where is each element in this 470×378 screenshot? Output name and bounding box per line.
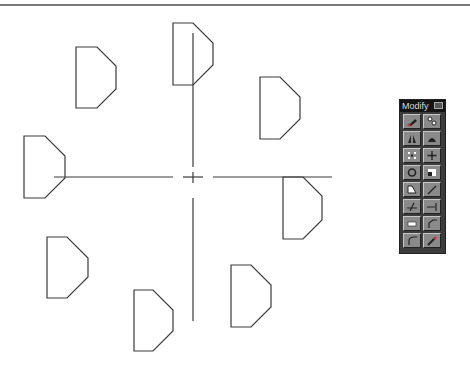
eraser-icon bbox=[406, 113, 418, 131]
block-shape[interactable] bbox=[231, 265, 271, 327]
offset-button[interactable] bbox=[423, 131, 441, 146]
move-icon bbox=[426, 147, 438, 165]
block-shape[interactable] bbox=[47, 237, 88, 298]
break-button[interactable] bbox=[403, 216, 421, 231]
modify-toolbar[interactable]: Modify bbox=[399, 99, 446, 254]
offset-icon bbox=[426, 130, 438, 148]
mirror-icon bbox=[406, 130, 418, 148]
erase-button[interactable] bbox=[403, 114, 421, 129]
scale-icon bbox=[426, 164, 438, 182]
stretch-icon bbox=[406, 181, 418, 199]
extend-button[interactable] bbox=[423, 199, 441, 214]
fillet-button[interactable] bbox=[403, 233, 421, 248]
extend-icon bbox=[426, 198, 438, 216]
block-shape[interactable] bbox=[76, 47, 116, 108]
fillet-icon bbox=[406, 232, 418, 250]
mirror-button[interactable] bbox=[403, 131, 421, 146]
array-button[interactable] bbox=[403, 148, 421, 163]
copy-object-icon bbox=[426, 113, 438, 131]
stretch-button[interactable] bbox=[403, 182, 421, 197]
chamfer-icon bbox=[426, 215, 438, 233]
scale-button[interactable] bbox=[423, 165, 441, 180]
chamfer-button[interactable] bbox=[423, 216, 441, 231]
trim-icon bbox=[406, 198, 418, 216]
shape-group bbox=[24, 23, 322, 351]
window-top-border bbox=[0, 4, 470, 6]
lengthen-button[interactable] bbox=[423, 182, 441, 197]
rotate-icon bbox=[406, 164, 418, 182]
toolbar-close-icon[interactable] bbox=[434, 102, 443, 109]
lengthen-icon bbox=[426, 181, 438, 199]
center-axes bbox=[54, 33, 332, 321]
break-icon bbox=[406, 215, 418, 233]
block-shape[interactable] bbox=[260, 77, 300, 139]
trim-button[interactable] bbox=[403, 199, 421, 214]
block-shape[interactable] bbox=[134, 290, 173, 351]
copy-button[interactable] bbox=[423, 114, 441, 129]
toolbar-title: Modify bbox=[402, 100, 429, 112]
move-button[interactable] bbox=[423, 148, 441, 163]
toolbar-button-grid bbox=[403, 114, 441, 248]
rotate-button[interactable] bbox=[403, 165, 421, 180]
block-shape[interactable] bbox=[283, 177, 322, 239]
explode-button[interactable] bbox=[423, 233, 441, 248]
block-shape[interactable] bbox=[24, 136, 65, 198]
explode-icon bbox=[426, 232, 438, 250]
array-icon bbox=[406, 147, 418, 165]
toolbar-title-bar[interactable]: Modify bbox=[400, 100, 445, 112]
